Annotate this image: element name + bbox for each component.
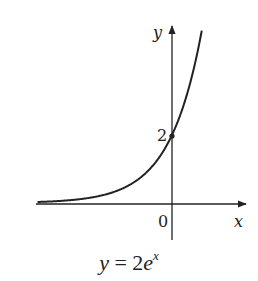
- caption-e: e: [143, 250, 153, 275]
- exponential-graph: y x 0 2: [0, 0, 258, 281]
- caption-eq: = 2: [109, 250, 143, 275]
- x-axis-label: x: [234, 212, 243, 231]
- y-axis-label: y: [152, 23, 163, 42]
- intercept-point: [169, 133, 174, 138]
- exponential-curve: [38, 31, 202, 202]
- intercept-label: 2: [157, 126, 167, 145]
- caption-y: y: [99, 250, 109, 275]
- caption-exp: x: [153, 248, 159, 263]
- equation-caption: y = 2ex: [0, 250, 258, 276]
- origin-label: 0: [158, 212, 168, 231]
